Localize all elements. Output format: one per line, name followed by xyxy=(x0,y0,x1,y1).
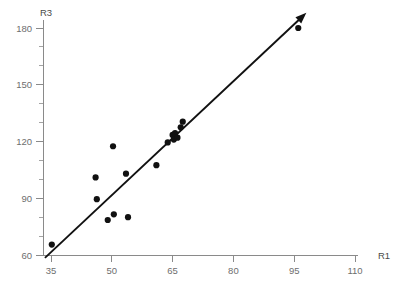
data-point xyxy=(178,124,184,130)
data-point xyxy=(94,196,100,202)
x-tick-label: 95 xyxy=(289,265,300,276)
data-point xyxy=(105,217,111,223)
y-tick-label: 60 xyxy=(21,250,32,261)
data-point xyxy=(295,25,301,31)
data-point xyxy=(165,139,171,145)
data-point xyxy=(125,214,131,220)
y-tick-label: 180 xyxy=(16,23,32,34)
x-axis-label: R1 xyxy=(378,250,390,261)
x-tick-label: 110 xyxy=(347,265,362,276)
data-points-group xyxy=(49,25,302,248)
data-point xyxy=(92,174,98,180)
data-point xyxy=(111,211,117,217)
plot-canvas: 6090120150180 R3 3550658095110 R1 xyxy=(0,0,412,297)
x-tick-label: 65 xyxy=(167,265,178,276)
y-axis-group: 6090120150180 R3 xyxy=(16,7,52,261)
data-point xyxy=(174,135,180,141)
x-axis-ticks xyxy=(51,255,355,262)
y-tick-label: 150 xyxy=(16,79,32,90)
y-tick-label: 120 xyxy=(16,136,32,147)
y-tick-label: 90 xyxy=(21,193,32,204)
data-point xyxy=(110,143,116,149)
data-point xyxy=(153,162,159,168)
x-tick-label: 80 xyxy=(228,265,239,276)
y-axis-label: R3 xyxy=(40,7,52,18)
y-axis-tick-labels: 6090120150180 xyxy=(16,23,32,261)
scatter-chart: 6090120150180 R3 3550658095110 R1 xyxy=(0,0,412,297)
x-tick-label: 50 xyxy=(107,265,118,276)
y-axis-ticks xyxy=(36,28,43,255)
x-axis-tick-labels: 3550658095110 xyxy=(46,265,363,276)
data-point xyxy=(123,171,129,177)
data-point xyxy=(180,119,186,125)
x-axis-group: 3550658095110 R1 xyxy=(43,250,390,276)
data-point xyxy=(49,241,55,247)
x-tick-label: 35 xyxy=(46,265,57,276)
